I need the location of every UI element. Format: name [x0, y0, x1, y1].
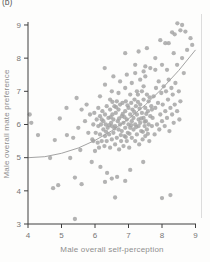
scatter-point [111, 131, 115, 135]
x-tick-label: 8 [160, 231, 165, 240]
scatter-point [91, 122, 95, 126]
scatter-point [178, 99, 182, 103]
scatter-point [170, 112, 174, 116]
scatter-point [155, 122, 159, 126]
scatter-point [172, 51, 176, 55]
scatter-point [125, 73, 129, 77]
scatter-point [164, 89, 168, 93]
scatter-point [117, 116, 121, 120]
scatter-point [130, 136, 134, 140]
scatter-point [163, 109, 167, 113]
scatter-point [157, 127, 161, 131]
y-tick-label: 9 [17, 21, 22, 30]
scatter-point [130, 81, 134, 85]
scatter-point [172, 121, 176, 125]
scatter-point [167, 129, 171, 133]
scatter-point [113, 195, 117, 199]
scatter-point [175, 63, 179, 67]
scatter-point [133, 71, 137, 75]
scatter-point [167, 78, 171, 82]
scatter-point [76, 126, 80, 130]
scatter-point [105, 139, 109, 143]
scatter-point [141, 84, 145, 88]
scatter-point [151, 94, 155, 98]
scatter-point [112, 126, 116, 130]
chart-canvas: 3456789456789Male overall self-perceptio… [0, 0, 210, 262]
scatter-point [173, 81, 177, 85]
scatter-point [162, 84, 166, 88]
scatter-point [132, 110, 136, 114]
scatter-point [84, 102, 88, 106]
scatter-point [146, 132, 150, 136]
scatter-point [105, 104, 109, 108]
y-tick-label: 7 [17, 87, 22, 96]
scatter-point [88, 112, 92, 116]
scatter-point [141, 69, 145, 73]
scatter-point [121, 121, 125, 125]
scatter-point [113, 142, 117, 146]
scatter-point [103, 112, 107, 116]
scatter-point [141, 160, 145, 164]
scatter-point [152, 132, 156, 136]
scatter-point [110, 100, 114, 104]
scatter-point [178, 28, 182, 32]
scatter-point [110, 137, 114, 141]
y-tick-label: 3 [17, 220, 22, 229]
scatter-point [92, 111, 96, 115]
scatter-point [133, 139, 137, 143]
scatter-point [127, 146, 131, 150]
scatter-point [147, 95, 151, 99]
scatter-point [129, 123, 133, 127]
scatter-point [143, 64, 147, 68]
scatter-point [156, 101, 160, 105]
scatter-point [79, 107, 83, 111]
scatter-point [158, 38, 162, 42]
scatter-point [109, 115, 113, 119]
scatter-point [160, 63, 164, 67]
scatter-point [180, 23, 184, 27]
scatter-point [100, 139, 104, 143]
scatter-point [177, 89, 181, 93]
scatter-point [110, 89, 114, 93]
scatter-point [153, 68, 157, 72]
scatter-point [98, 94, 102, 98]
scatter-point [29, 121, 33, 125]
scatter-point [157, 79, 161, 83]
scatter-point [114, 105, 118, 109]
scatter-points [28, 21, 195, 221]
scatter-point [185, 48, 189, 52]
scatter-point [148, 66, 152, 70]
scatter-point [173, 32, 177, 36]
scatter-point [161, 102, 165, 106]
scatter-point [123, 86, 127, 90]
scatter-point [123, 51, 127, 55]
scatter-point [97, 146, 101, 150]
x-tick-label: 6 [93, 231, 98, 240]
scatter-point [95, 117, 99, 121]
scatter-point [83, 119, 87, 123]
scatter-point [140, 111, 144, 115]
scatter-point [153, 56, 157, 60]
scatter-point [160, 119, 164, 123]
scatter-point [115, 175, 119, 179]
x-tick-label: 5 [59, 231, 64, 240]
scatter-point [96, 106, 100, 110]
scatter-point [158, 112, 162, 116]
scatter-point [166, 97, 170, 101]
scatter-point [153, 106, 157, 110]
scatter-point [65, 133, 69, 137]
scatter-point [135, 132, 139, 136]
scatter-point [90, 160, 94, 164]
scatter-point [154, 86, 158, 90]
scatter-plot-figure: 3456789456789Male overall self-perceptio… [0, 0, 210, 262]
scatter-point [116, 91, 120, 95]
scatter-point [165, 68, 169, 72]
scatter-point [117, 147, 121, 151]
scatter-point [94, 131, 98, 135]
scatter-point [143, 74, 147, 78]
y-tick-label: 4 [17, 187, 22, 196]
scatter-point [168, 106, 172, 110]
scatter-point [51, 186, 55, 190]
scatter-point [159, 91, 163, 95]
scatter-point [138, 78, 142, 82]
